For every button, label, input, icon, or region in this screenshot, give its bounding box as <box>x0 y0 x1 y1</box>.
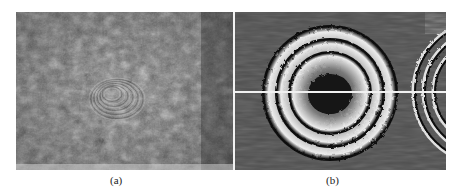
panel-a-speckle-image <box>16 12 233 170</box>
caption-a: (a) <box>110 174 122 186</box>
profile-line <box>235 91 446 93</box>
panel-b-phase-map <box>235 12 446 170</box>
speckle-pattern <box>16 12 233 170</box>
phase-fringe-map <box>235 12 446 170</box>
caption-b: (b) <box>326 174 339 186</box>
